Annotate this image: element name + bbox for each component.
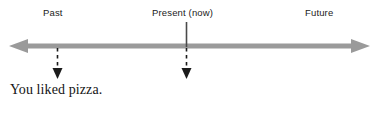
present-event-pointer-arrowhead [182,68,192,79]
axis-label-future: Future [305,7,333,19]
axis-label-present: Present (now) [152,7,213,19]
time-axis [9,39,370,53]
event-caption: You liked pizza. [10,82,102,98]
present-event-pointer [182,48,192,79]
timeline-figure: Past Present (now) Future You liked pizz… [0,0,379,116]
past-event-pointer [53,48,63,79]
time-axis-right-arrowhead [351,39,370,53]
time-axis-left-arrowhead [9,39,28,53]
past-event-pointer-arrowhead [53,68,63,79]
axis-label-past: Past [43,7,63,19]
